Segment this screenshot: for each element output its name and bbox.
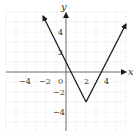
y-tick-label: −4 xyxy=(53,108,65,117)
y-tick-label: −2 xyxy=(53,88,65,97)
x-axis-label: x xyxy=(128,66,134,77)
x-tick-label: 0 xyxy=(58,77,63,86)
x-tick-label: −4 xyxy=(19,77,31,86)
x-tick-label: 4 xyxy=(104,77,109,86)
x-tick-label: 2 xyxy=(84,77,89,86)
y-tick-label: 4 xyxy=(58,28,63,37)
y-axis-label: y xyxy=(60,1,67,12)
x-tick-label: −2 xyxy=(39,77,51,86)
graph: x y −4 −2 0 2 4 4 2 −2 −4 xyxy=(0,0,134,131)
